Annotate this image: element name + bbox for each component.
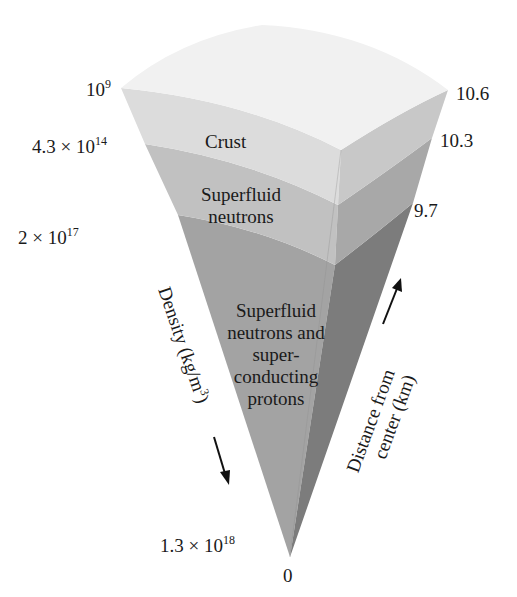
density-label-crust-base: 4.3 × 1014: [32, 137, 107, 156]
neutron-star-diagram: Crust Superfluid neutrons Superfluid neu…: [0, 0, 517, 597]
core-label-line4: conducting: [210, 366, 342, 388]
neutrons-label-line1: Superfluid: [188, 184, 294, 206]
layer-label-core: Superfluid neutrons and super- conductin…: [210, 300, 342, 410]
distance-label-surface: 10.6: [456, 84, 489, 103]
layer-label-crust: Crust: [205, 131, 246, 153]
core-label-line2: neutrons and: [210, 322, 342, 344]
layer-label-superfluid-neutrons: Superfluid neutrons: [188, 184, 294, 228]
distance-arrow-icon: [383, 278, 402, 324]
wedge-illustration: [0, 0, 517, 597]
distance-label-center: 0: [283, 566, 293, 585]
core-label-line1: Superfluid: [210, 300, 342, 322]
density-arrow-icon: [214, 437, 230, 485]
density-label-center: 1.3 × 1018: [160, 536, 235, 555]
density-label-surface: 109: [86, 80, 111, 99]
density-label-neutron-base: 2 × 1017: [18, 228, 79, 247]
distance-label-neutron-base: 9.7: [414, 201, 438, 220]
core-label-line5: protons: [210, 388, 342, 410]
neutrons-label-line2: neutrons: [188, 206, 294, 228]
core-label-line3: super-: [210, 344, 342, 366]
crust-label-text: Crust: [205, 131, 246, 153]
distance-label-crust-base: 10.3: [440, 131, 473, 150]
